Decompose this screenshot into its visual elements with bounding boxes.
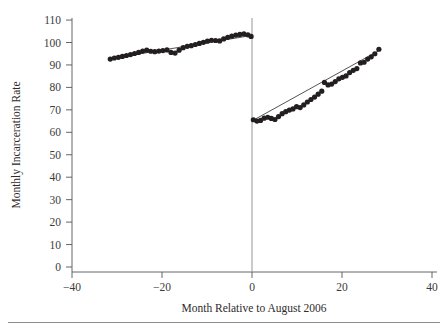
x-tick-label: 20: [336, 281, 348, 293]
x-tick-label: 40: [426, 281, 438, 293]
x-tick-label: −20: [153, 281, 171, 293]
y-tick-label: 20: [50, 216, 62, 228]
footer-rule: [8, 322, 440, 323]
y-tick-label: 80: [50, 81, 62, 93]
x-axis-title: Month Relative to August 2006: [181, 302, 326, 315]
series-1-points: [108, 31, 254, 61]
y-tick-label: 10: [50, 239, 62, 251]
y-axis-ticks: 0102030405060708090100110: [44, 14, 72, 273]
data-point: [372, 51, 377, 56]
x-axis-ticks: −40−2002040: [63, 272, 438, 293]
x-tick-label: −40: [63, 281, 81, 293]
data-point: [319, 89, 324, 94]
data-point: [376, 47, 381, 52]
y-tick-label: 0: [55, 261, 61, 273]
y-tick-label: 100: [44, 37, 62, 49]
scatter-series-group: [108, 31, 382, 123]
y-tick-label: 60: [50, 126, 62, 138]
chart-figure: 0102030405060708090100110 −40−2002040 Mo…: [0, 0, 448, 333]
y-tick-label: 50: [50, 149, 62, 161]
x-tick-label: 0: [249, 281, 255, 293]
y-tick-label: 70: [50, 104, 62, 116]
y-tick-label: 30: [50, 194, 62, 206]
y-axis-title: Monthly Incarceration Rate: [10, 81, 23, 208]
data-point: [249, 34, 254, 39]
y-tick-label: 110: [44, 14, 61, 26]
y-tick-label: 40: [50, 171, 62, 183]
y-tick-label: 90: [50, 59, 62, 71]
data-point: [354, 66, 359, 71]
incarceration-rate-scatter-plot: 0102030405060708090100110 −40−2002040 Mo…: [0, 0, 448, 333]
